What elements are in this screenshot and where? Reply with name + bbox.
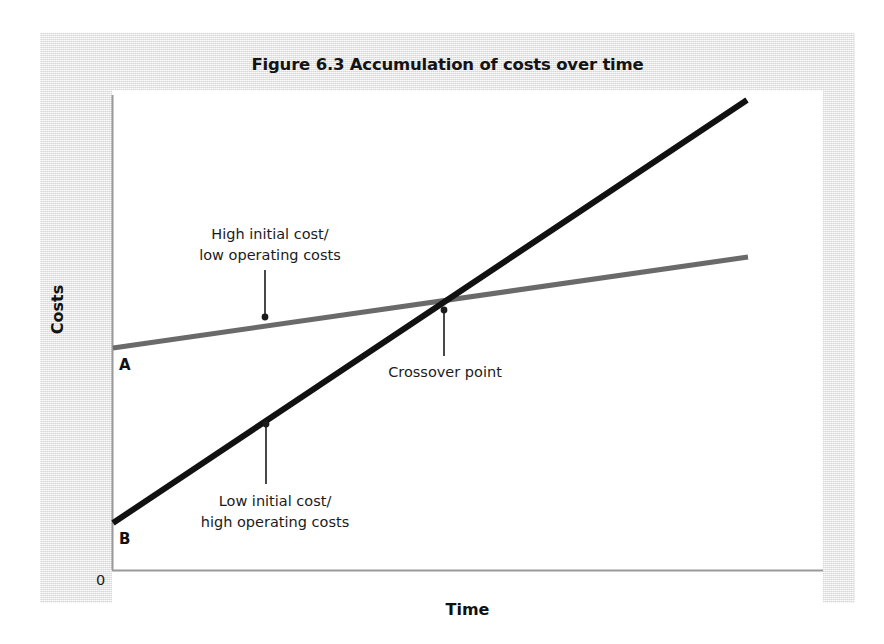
annotation-high-initial-cost: High initial cost/ low operating costs bbox=[170, 224, 370, 266]
figure-title: Figure 6.3 Accumulation of costs over ti… bbox=[40, 55, 855, 74]
annotation-low-initial-cost: Low initial cost/ high operating costs bbox=[175, 491, 375, 533]
series-label-b: B bbox=[119, 530, 130, 548]
axis-origin-label: 0 bbox=[96, 572, 105, 588]
series-label-a: A bbox=[119, 356, 131, 374]
annotation-crossover-point: Crossover point bbox=[365, 362, 525, 383]
figure-root: Figure 6.3 Accumulation of costs over ti… bbox=[0, 0, 884, 644]
y-axis-label: Costs bbox=[48, 250, 67, 370]
x-axis-label: Time bbox=[112, 600, 823, 619]
